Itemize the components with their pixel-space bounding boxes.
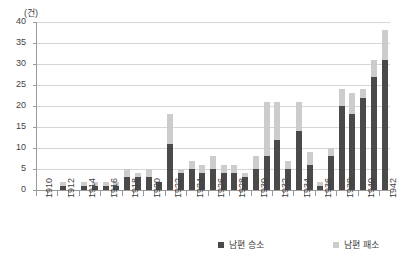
- bar-group[interactable]: [167, 22, 173, 190]
- legend-entry[interactable]: 남편 승소: [218, 238, 264, 251]
- bar-group[interactable]: [178, 22, 184, 190]
- bar-segment-husband-lose[interactable]: [221, 165, 227, 173]
- bar-group[interactable]: [221, 22, 227, 190]
- bar-segment-husband-lose[interactable]: [285, 161, 291, 169]
- x-axis-tick-label: 1938: [346, 178, 355, 198]
- legend-label: 남편 승소: [229, 238, 264, 251]
- bar-group[interactable]: [146, 22, 152, 190]
- x-axis-tick-mark: [358, 191, 359, 196]
- bar-group[interactable]: [264, 22, 270, 190]
- bar-group[interactable]: [307, 22, 313, 190]
- bar-group[interactable]: [92, 22, 98, 190]
- bar-group[interactable]: [285, 22, 291, 190]
- x-axis-tick-label: 1922: [174, 178, 183, 198]
- bar-group[interactable]: [124, 22, 130, 190]
- y-axis-tick-label: 15: [4, 122, 26, 131]
- bar-group[interactable]: [71, 22, 77, 190]
- y-axis-tick-label: 30: [4, 59, 26, 68]
- bar-group[interactable]: [231, 22, 237, 190]
- bar-chart: (건) 0510152025303540 1910191219141916191…: [0, 0, 403, 259]
- bar-segment-husband-lose[interactable]: [210, 156, 216, 169]
- y-axis-tick-label: 10: [4, 143, 26, 152]
- bar-group[interactable]: [242, 22, 248, 190]
- bar-group[interactable]: [199, 22, 205, 190]
- bar-segment-husband-lose[interactable]: [146, 169, 152, 177]
- plot-area: [36, 22, 390, 190]
- bar-group[interactable]: [60, 22, 66, 190]
- bar-segment-husband-lose[interactable]: [178, 169, 184, 173]
- x-axis-tick-label: 1924: [196, 178, 205, 198]
- bar-segment-husband-lose[interactable]: [349, 93, 355, 114]
- bar-group[interactable]: [382, 22, 388, 190]
- x-axis-tick-mark: [122, 191, 123, 196]
- bar-group[interactable]: [328, 22, 334, 190]
- bar-group[interactable]: [349, 22, 355, 190]
- x-axis-tick-mark: [143, 191, 144, 196]
- x-axis-tick-mark: [100, 191, 101, 196]
- x-axis-tick-mark: [272, 191, 273, 196]
- x-axis-tick-label: 1910: [45, 178, 54, 198]
- x-axis-tick-mark: [79, 191, 80, 196]
- bar-group[interactable]: [135, 22, 141, 190]
- bar-segment-husband-win[interactable]: [371, 77, 377, 190]
- bar-segment-husband-lose[interactable]: [135, 173, 141, 177]
- x-axis-tick-label: 1916: [110, 178, 119, 198]
- x-axis-tick-label: 1926: [217, 178, 226, 198]
- bar-group[interactable]: [371, 22, 377, 190]
- x-axis-tick-label: 1940: [367, 178, 376, 198]
- bar-group[interactable]: [360, 22, 366, 190]
- bar-segment-husband-lose[interactable]: [360, 89, 366, 97]
- bar-segment-husband-lose[interactable]: [253, 156, 259, 169]
- bar-segment-husband-lose[interactable]: [189, 161, 195, 169]
- chart-legend: 남편 승소남편 패소: [0, 236, 403, 252]
- bar-segment-husband-win[interactable]: [382, 60, 388, 190]
- y-axis-tick-label: 20: [4, 101, 26, 110]
- y-axis-tick-label: 5: [4, 164, 26, 173]
- bar-segment-husband-win[interactable]: [360, 98, 366, 190]
- x-axis-tick-label: 1934: [303, 178, 312, 198]
- x-axis-tick-mark: [165, 191, 166, 196]
- x-axis-tick-mark: [208, 191, 209, 196]
- x-axis-tick-label: 1930: [260, 178, 269, 198]
- bar-group[interactable]: [339, 22, 345, 190]
- bar-segment-husband-lose[interactable]: [242, 173, 248, 177]
- x-axis-tick-mark: [251, 191, 252, 196]
- y-axis-tick-label: 0: [4, 185, 26, 194]
- bar-segment-husband-lose[interactable]: [339, 89, 345, 106]
- x-axis-tick-mark: [315, 191, 316, 196]
- bar-segment-husband-lose[interactable]: [307, 152, 313, 165]
- x-axis-tick-mark: [336, 191, 337, 196]
- bar-group[interactable]: [253, 22, 259, 190]
- bar-segment-husband-lose[interactable]: [371, 60, 377, 77]
- y-axis-tick-label: 25: [4, 80, 26, 89]
- y-axis-unit-label: (건): [24, 6, 38, 19]
- bar-segment-husband-lose[interactable]: [274, 102, 280, 140]
- bar-group[interactable]: [296, 22, 302, 190]
- bar-segment-husband-lose[interactable]: [124, 169, 130, 177]
- bar-segment-husband-lose[interactable]: [264, 102, 270, 157]
- bar-group[interactable]: [38, 22, 44, 190]
- bar-segment-husband-lose[interactable]: [328, 148, 334, 156]
- bar-group[interactable]: [189, 22, 195, 190]
- bar-group[interactable]: [49, 22, 55, 190]
- bar-group[interactable]: [156, 22, 162, 190]
- x-axis-tick-label: 1912: [67, 178, 76, 198]
- legend-swatch-icon: [333, 242, 339, 248]
- legend-entry[interactable]: 남편 패소: [333, 238, 379, 251]
- x-axis-tick-label: 1928: [238, 178, 247, 198]
- x-axis-tick-mark: [229, 191, 230, 196]
- bar-group[interactable]: [274, 22, 280, 190]
- bar-segment-husband-lose[interactable]: [167, 114, 173, 143]
- bar-group[interactable]: [113, 22, 119, 190]
- bar-segment-husband-lose[interactable]: [296, 102, 302, 131]
- bar-group[interactable]: [210, 22, 216, 190]
- bar-segment-husband-lose[interactable]: [382, 30, 388, 59]
- bar-group[interactable]: [103, 22, 109, 190]
- x-axis-tick-mark: [293, 191, 294, 196]
- bar-segment-husband-lose[interactable]: [231, 165, 237, 173]
- bar-group[interactable]: [317, 22, 323, 190]
- x-axis-tick-mark: [36, 191, 37, 196]
- x-axis-tick-label: 1914: [88, 178, 97, 198]
- bar-segment-husband-lose[interactable]: [199, 165, 205, 173]
- bar-group[interactable]: [81, 22, 87, 190]
